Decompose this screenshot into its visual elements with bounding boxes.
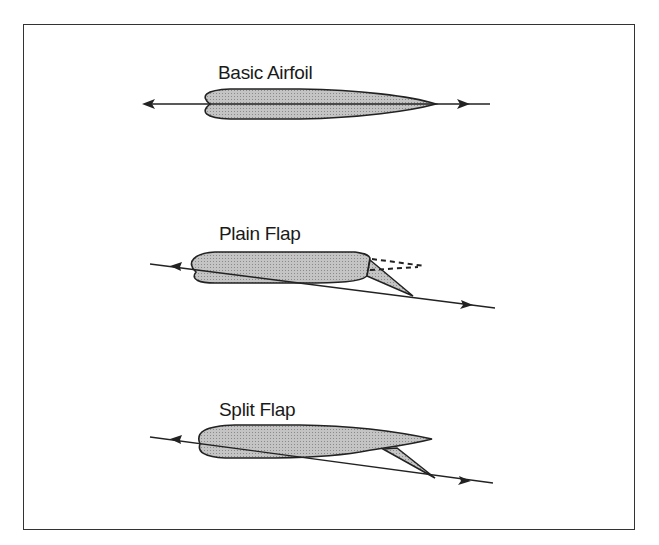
- basic-airfoil-drawing: [142, 89, 490, 119]
- airfoil-diagrams: [0, 0, 659, 545]
- plain-flap-drawing: [150, 252, 495, 309]
- split-flap-drawing: [150, 425, 493, 485]
